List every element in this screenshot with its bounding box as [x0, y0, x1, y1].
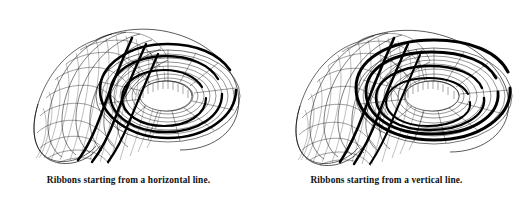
left-figure-caption: Ribbons starting from a horizontal line.	[0, 174, 257, 186]
left-figure-plot	[0, 0, 257, 172]
right-figure-caption: Ribbons starting from a vertical line.	[258, 174, 515, 186]
right-figure-plot	[258, 0, 515, 172]
mesh-group-right	[296, 30, 512, 166]
spiral-tube-wireframe-horizontal	[0, 0, 257, 172]
right-figure-panel: Ribbons starting from a vertical line.	[258, 0, 515, 198]
left-figure-panel: Ribbons starting from a horizontal line.	[0, 0, 257, 198]
figure-pair: Ribbons starting from a horizontal line.	[0, 0, 515, 198]
mesh-group-left	[34, 29, 240, 164]
spiral-tube-wireframe-vertical	[258, 0, 515, 172]
